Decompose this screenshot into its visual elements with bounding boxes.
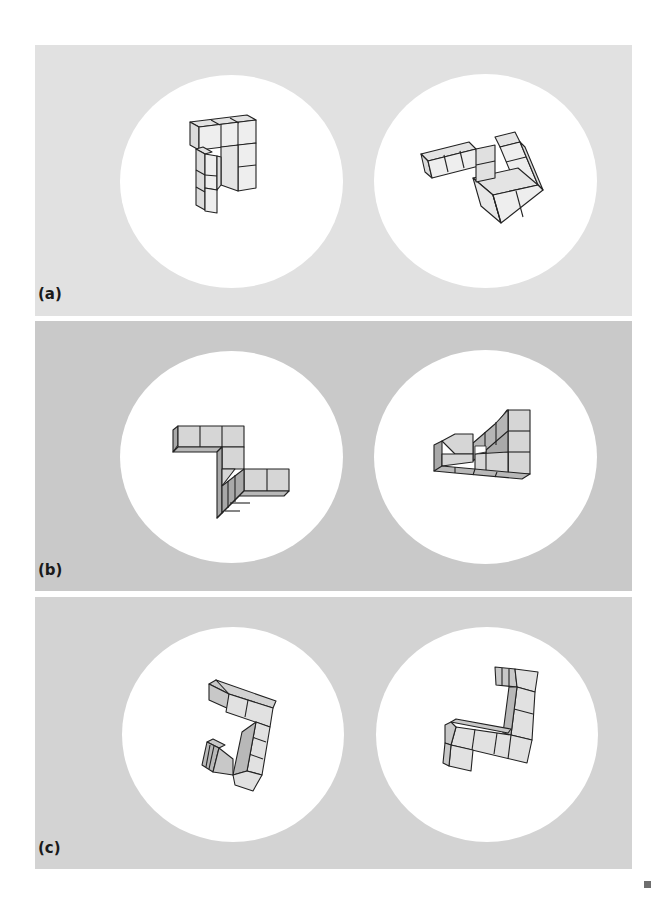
- panel-a: (a): [35, 45, 632, 316]
- panel-label-c: (c): [38, 839, 61, 857]
- block-figure-right: [35, 597, 632, 869]
- panel-b: (b): [35, 321, 632, 591]
- block-figure-right: [35, 45, 632, 316]
- end-of-figure-mark: [644, 881, 651, 888]
- panel-label-a: (a): [38, 285, 62, 303]
- panel-label-b: (b): [38, 561, 62, 579]
- panel-c: (c): [35, 597, 632, 869]
- block-figure-right: [35, 321, 632, 591]
